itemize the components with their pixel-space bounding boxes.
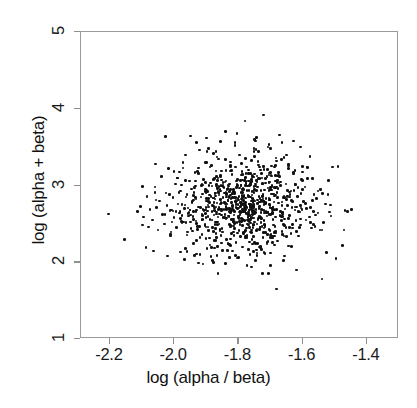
data-point <box>201 219 204 222</box>
data-point <box>305 219 308 222</box>
x-tick-label: -2.0 <box>143 345 203 364</box>
data-point <box>264 201 267 204</box>
data-point <box>281 201 284 204</box>
data-point <box>283 255 286 258</box>
data-point <box>184 204 187 207</box>
data-point <box>295 269 298 272</box>
data-point <box>223 186 226 189</box>
data-point <box>299 146 302 149</box>
data-point <box>258 228 261 231</box>
data-point <box>141 224 144 227</box>
data-point <box>257 202 260 205</box>
data-point <box>248 184 251 187</box>
data-point <box>279 184 282 187</box>
data-point <box>186 250 189 253</box>
data-point <box>253 185 256 188</box>
data-point <box>239 179 242 182</box>
x-tick <box>173 338 174 344</box>
data-point <box>221 227 224 230</box>
data-point <box>249 253 252 256</box>
data-point <box>178 171 181 174</box>
data-point <box>221 231 224 234</box>
data-point <box>213 214 216 217</box>
data-point <box>313 193 316 196</box>
data-point <box>210 255 213 258</box>
data-point <box>196 228 199 231</box>
data-point <box>211 219 214 222</box>
data-point <box>310 227 313 230</box>
data-point <box>195 141 198 144</box>
data-point <box>166 204 169 207</box>
data-point <box>141 185 144 188</box>
data-point <box>225 192 228 195</box>
data-point <box>236 221 239 224</box>
data-point <box>179 210 182 213</box>
data-point <box>244 120 247 123</box>
data-point <box>255 136 258 139</box>
data-point <box>233 214 236 217</box>
data-point <box>291 206 294 209</box>
data-point <box>278 134 281 137</box>
x-tick-label: -1.8 <box>207 345 267 364</box>
data-point <box>207 229 210 232</box>
data-point <box>317 212 320 215</box>
data-point <box>211 226 214 229</box>
data-point <box>192 218 195 221</box>
data-point <box>236 232 239 235</box>
data-point <box>192 215 195 218</box>
data-point <box>277 171 280 174</box>
data-point <box>180 184 183 187</box>
data-point <box>107 213 110 216</box>
data-point <box>292 140 295 143</box>
data-point <box>308 216 311 219</box>
data-point <box>228 256 231 259</box>
data-point <box>222 196 225 199</box>
data-point <box>238 187 241 190</box>
data-point <box>235 241 238 244</box>
data-point <box>195 239 198 242</box>
data-point <box>305 207 308 210</box>
data-point <box>206 150 209 153</box>
data-point <box>314 214 317 217</box>
data-point <box>251 243 254 246</box>
data-point <box>265 197 268 200</box>
data-point <box>257 150 260 153</box>
data-point <box>189 209 192 212</box>
y-axis-title: log (alpha + beta) <box>29 55 49 305</box>
data-point <box>253 147 256 150</box>
x-tick-label: -1.4 <box>336 345 396 364</box>
data-point <box>230 169 233 172</box>
data-point <box>286 189 289 192</box>
data-point <box>270 165 273 168</box>
data-point <box>264 182 267 185</box>
data-point <box>252 235 255 238</box>
data-point <box>213 247 216 250</box>
y-tick <box>74 185 80 186</box>
data-point <box>301 179 304 182</box>
data-point <box>246 264 249 267</box>
data-point <box>290 245 293 248</box>
data-point <box>276 240 279 243</box>
data-point <box>250 216 253 219</box>
data-point <box>301 171 304 174</box>
data-point <box>147 226 150 229</box>
data-point <box>248 189 251 192</box>
data-point <box>311 177 314 180</box>
data-point <box>164 213 167 216</box>
data-point <box>152 250 155 253</box>
data-point <box>283 218 286 221</box>
data-point <box>282 212 285 215</box>
data-point <box>241 246 244 249</box>
data-point <box>325 251 328 254</box>
data-point <box>239 235 242 238</box>
data-point <box>224 181 227 184</box>
data-point <box>219 140 222 143</box>
data-point <box>330 215 333 218</box>
data-point <box>271 241 274 244</box>
data-point <box>283 224 286 227</box>
data-point <box>260 172 263 175</box>
data-point <box>327 193 330 196</box>
data-point <box>253 191 256 194</box>
data-point <box>240 162 243 165</box>
data-point <box>331 166 334 169</box>
